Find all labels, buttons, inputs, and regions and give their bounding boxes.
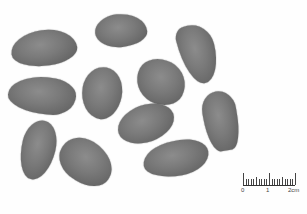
scale-tick	[292, 179, 293, 185]
seed	[140, 135, 211, 181]
scale-tick	[251, 179, 252, 185]
scale-tick	[261, 179, 262, 185]
scale-tick	[285, 179, 286, 185]
scale-tick	[256, 177, 257, 185]
scale-tick	[243, 173, 244, 185]
scale-label-1: 1	[266, 187, 269, 194]
scale-bar: 0 1 2cm	[241, 171, 297, 197]
scale-tick	[282, 177, 283, 185]
seed	[14, 117, 62, 183]
seed-photo: 0 1 2cm	[0, 0, 307, 214]
scale-tick	[272, 179, 273, 185]
seed	[93, 11, 148, 49]
scale-tick	[266, 179, 267, 185]
scale-tick	[279, 179, 280, 185]
seed	[199, 89, 243, 154]
scale-tick	[246, 179, 247, 185]
seed	[78, 64, 126, 122]
scale-tick	[290, 179, 291, 185]
scale-tick	[269, 173, 270, 185]
scale-tick	[287, 179, 288, 185]
scale-tick	[295, 173, 296, 185]
scale-tick	[248, 179, 249, 185]
seed	[9, 26, 79, 71]
seed	[51, 129, 121, 194]
scale-tick	[264, 179, 265, 185]
scale-tick	[274, 179, 275, 185]
scale-tick	[277, 179, 278, 185]
scale-label-0: 0	[241, 187, 244, 194]
scale-tick	[253, 179, 254, 185]
scale-label-2cm: 2cm	[288, 187, 299, 194]
scale-bar-baseline	[243, 185, 295, 186]
scale-tick	[259, 179, 260, 185]
seed	[7, 74, 78, 117]
